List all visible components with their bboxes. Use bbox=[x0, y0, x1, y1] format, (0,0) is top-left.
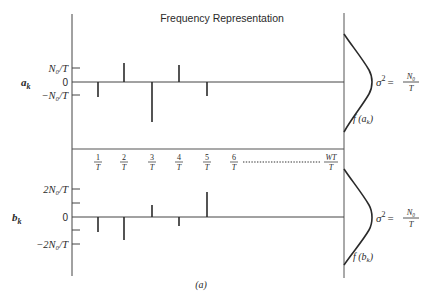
figure-title: Frequency Representation bbox=[160, 12, 284, 24]
density-label-ak: f (ak) bbox=[353, 113, 374, 126]
svg-text:N₀: N₀ bbox=[406, 71, 416, 81]
svg-text:T: T bbox=[329, 163, 334, 172]
freq-label-2: 2 T bbox=[120, 153, 128, 172]
freq-label-4: 4 T bbox=[175, 153, 183, 172]
frequency-representation-figure: Frequency Representation N₀/T 0 −N₀/T ak… bbox=[0, 0, 426, 296]
svg-text:T: T bbox=[122, 163, 127, 172]
svg-text:T: T bbox=[409, 219, 415, 229]
svg-text:6: 6 bbox=[232, 153, 236, 162]
svg-text:3: 3 bbox=[150, 153, 154, 162]
variance-label-bottom: σ2= N₀ T bbox=[376, 207, 419, 229]
freq-label-wt: WT T bbox=[324, 153, 338, 172]
variance-label-top: σ2= N₀ T bbox=[376, 71, 419, 93]
svg-text:T: T bbox=[409, 83, 415, 93]
freq-label-6: 6 T bbox=[230, 153, 238, 172]
svg-text:5: 5 bbox=[205, 153, 209, 162]
axis-label-ak: ak bbox=[21, 76, 31, 91]
freq-label-1: 1 T bbox=[94, 153, 102, 172]
bottom-panel: 2N₀/T 0 −2N₀/T bk σ2= N₀ T f (bk) bbox=[12, 169, 419, 265]
freq-label-5: 5 T bbox=[203, 153, 211, 172]
density-label-bk: f (bk) bbox=[353, 251, 374, 264]
svg-text:T: T bbox=[177, 163, 182, 172]
svg-text:1: 1 bbox=[96, 153, 100, 162]
tick-label-2pos: 2N₀/T bbox=[43, 184, 69, 195]
tick-label-pos: N₀/T bbox=[48, 63, 70, 74]
axis-label-bk: bk bbox=[12, 211, 22, 226]
tick-label-2neg: −2N₀/T bbox=[36, 239, 69, 250]
svg-text:T: T bbox=[96, 163, 101, 172]
svg-text:σ2=: σ2= bbox=[376, 74, 394, 88]
tick-label-neg: −N₀/T bbox=[42, 90, 70, 101]
svg-text:2: 2 bbox=[122, 153, 126, 162]
top-panel: N₀/T 0 −N₀/T ak σ2= N₀ T f (ak) bbox=[21, 34, 419, 132]
svg-text:σ2=: σ2= bbox=[376, 210, 394, 224]
svg-text:WT: WT bbox=[325, 153, 337, 162]
svg-text:N₀: N₀ bbox=[406, 207, 416, 217]
svg-text:T: T bbox=[232, 163, 237, 172]
svg-text:4: 4 bbox=[177, 153, 181, 162]
svg-text:T: T bbox=[150, 163, 155, 172]
tick-label-zero-b: 0 bbox=[62, 212, 68, 223]
svg-text:T: T bbox=[205, 163, 210, 172]
tick-label-zero: 0 bbox=[62, 77, 68, 88]
frequency-axis-labels: 1 T 2 T 3 T 4 T 5 T 6 T bbox=[94, 153, 338, 172]
freq-label-3: 3 T bbox=[148, 153, 156, 172]
figure-caption: (a) bbox=[195, 279, 207, 291]
